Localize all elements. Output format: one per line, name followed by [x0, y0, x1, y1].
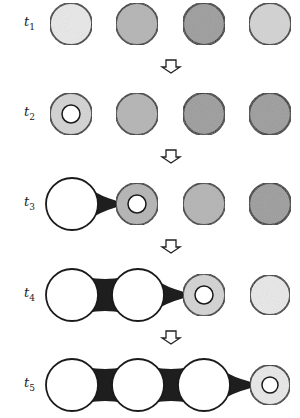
shaded-cell — [183, 93, 225, 135]
down-arrow-icon — [162, 60, 180, 73]
time-label-subscript: 1 — [29, 22, 35, 32]
down-arrow-icon — [162, 150, 180, 163]
shaded-cell — [116, 93, 158, 135]
shaded-cell — [116, 3, 158, 45]
time-label-subscript: 2 — [29, 112, 35, 122]
fused-cell — [46, 269, 98, 321]
ring-cell — [116, 183, 158, 225]
fused-cell — [112, 359, 164, 411]
ring-cell — [250, 365, 290, 405]
down-arrow-icon — [162, 331, 180, 344]
shaded-cell — [249, 3, 291, 45]
time-label-t3: t3 — [24, 194, 35, 212]
fused-cell — [46, 359, 98, 411]
time-label-t2: t2 — [24, 104, 35, 122]
ring-cell — [183, 274, 225, 316]
shaded-cell — [249, 183, 291, 225]
fused-cell — [112, 269, 164, 321]
shaded-cell — [50, 3, 92, 45]
time-label-subscript: 3 — [29, 202, 35, 212]
shaded-cell — [183, 183, 225, 225]
time-label-t1: t1 — [24, 14, 35, 32]
time-label-t4: t4 — [24, 285, 35, 303]
down-arrow-icon — [162, 240, 180, 253]
ring-hole — [262, 377, 278, 393]
diagram-canvas — [0, 0, 300, 418]
fused-cell — [178, 359, 230, 411]
ring-hole — [128, 195, 146, 213]
time-label-subscript: 4 — [29, 293, 35, 303]
ring-cell — [50, 93, 92, 135]
ring-hole — [62, 105, 80, 123]
time-label-subscript: 5 — [29, 383, 35, 393]
shaded-cell — [250, 275, 290, 315]
fused-cell — [46, 178, 98, 230]
shaded-cell — [183, 3, 225, 45]
shaded-cell — [249, 93, 291, 135]
ring-hole — [195, 286, 213, 304]
time-label-t5: t5 — [24, 375, 35, 393]
